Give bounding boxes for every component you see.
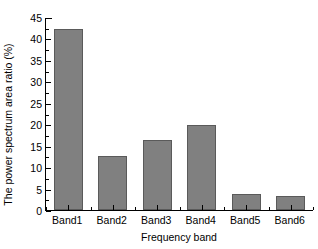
x-minor-tick <box>91 207 92 210</box>
y-tick-label: 15 <box>30 141 42 152</box>
y-tick-mark <box>46 39 51 40</box>
x-tick-label: Band5 <box>223 214 268 226</box>
x-axis-tick <box>291 205 292 210</box>
y-tick-mark <box>46 190 51 191</box>
y-minor-tick-mark <box>46 93 49 94</box>
y-minor-tick-mark <box>46 200 49 201</box>
x-axis-title: Frequency band <box>45 231 313 243</box>
y-tick-mark <box>46 104 51 105</box>
y-tick-label: 30 <box>30 77 42 88</box>
bar-chart: The power spectrum area ratio (%) 051015… <box>0 0 318 249</box>
x-minor-tick <box>224 207 225 210</box>
y-axis-title: The power spectrum area ratio (%) <box>0 0 16 249</box>
bar <box>143 140 172 210</box>
x-tick-label: Band4 <box>179 214 224 226</box>
x-axis-tick <box>246 205 247 210</box>
x-minor-tick <box>46 207 47 210</box>
y-tick-label: 40 <box>30 34 42 45</box>
plot-area: 051015202530354045 <box>45 18 313 211</box>
y-tick-mark <box>46 125 51 126</box>
y-tick-mark <box>46 147 51 148</box>
y-tick-mark <box>46 211 51 212</box>
y-tick-mark <box>46 18 51 19</box>
x-axis-tick <box>113 205 114 210</box>
y-tick-label: 5 <box>36 184 42 195</box>
y-tick-mark <box>46 82 51 83</box>
x-axis-tick <box>68 205 69 210</box>
y-minor-tick-mark <box>46 115 49 116</box>
y-minor-tick-mark <box>46 157 49 158</box>
y-tick-label: 20 <box>30 120 42 131</box>
y-minor-tick-mark <box>46 72 49 73</box>
y-tick-mark <box>46 168 51 169</box>
x-axis-tick <box>157 205 158 210</box>
y-tick-label: 10 <box>30 163 42 174</box>
x-minor-tick <box>135 207 136 210</box>
x-tick-label: Band1 <box>45 214 90 226</box>
bar <box>98 156 127 210</box>
y-minor-tick-mark <box>46 179 49 180</box>
y-minor-tick-mark <box>46 50 49 51</box>
x-minor-tick <box>313 207 314 210</box>
y-minor-tick-mark <box>46 29 49 30</box>
x-tick-label: Band2 <box>90 214 135 226</box>
y-minor-tick-mark <box>46 136 49 137</box>
y-tick-label: 0 <box>36 206 42 217</box>
y-tick-label: 25 <box>30 99 42 110</box>
bar <box>187 125 216 210</box>
x-minor-tick <box>269 207 270 210</box>
x-axis-tick <box>202 205 203 210</box>
bar <box>54 29 83 210</box>
y-tick-label: 35 <box>30 56 42 67</box>
x-minor-tick <box>180 207 181 210</box>
y-tick-label: 45 <box>30 13 42 24</box>
x-tick-label: Band6 <box>268 214 313 226</box>
y-tick-mark <box>46 61 51 62</box>
x-tick-label: Band3 <box>134 214 179 226</box>
